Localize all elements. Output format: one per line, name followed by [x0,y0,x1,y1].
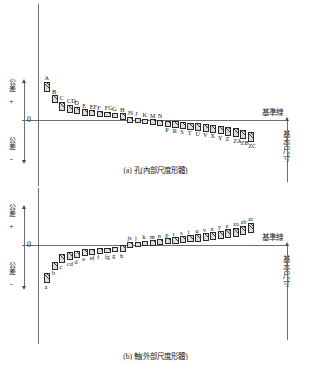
tolerance-zone-bar [52,95,58,103]
hole-tolerance-chart: 0公差+公差-基準線基本尺寸ABCCDDEEFFFGGHJSJKMNPRSTUV… [0,0,311,190]
tolerance-zone-bar [142,119,148,125]
tolerance-zone-label: Z [226,136,230,142]
basic-size-arrow-icon [285,242,289,246]
tolerance-zone-label: K [143,112,147,118]
tolerance-zone-bar [233,128,239,137]
tolerance-zone-label: S [180,129,183,135]
tolerance-zone-bar [142,241,148,247]
tolerance-zone-label: zc [248,216,254,222]
tolerance-zone-label: r [173,231,175,237]
tolerance-zone-label: s [180,230,182,236]
tolerance-zone-bar [248,132,254,142]
tolerance-zone-label: c [60,264,63,270]
tolerance-zone-label: EF [90,104,97,110]
tolerance-zone-bar [82,109,88,115]
tolerance-zone-label: za [233,221,239,227]
tolerance-zone-bar [218,231,224,239]
tolerance-zone-label: P [165,127,168,133]
tolerance-negative-label: 公差 [8,261,15,275]
minus-sign-label: - [10,156,13,164]
plot-area-b: 0公差+公差-基準線基本尺寸abccddeefffgghjsjkmnprstuv… [0,186,311,379]
tolerance-zone-label: u [195,228,198,234]
tolerance-zone-label: h [120,253,123,259]
tolerance-zone-bar [135,118,141,123]
tolerance-zone-label: R [173,128,177,134]
tolerance-zone-bar [218,126,224,134]
tolerance-zone-label: js [127,235,131,241]
tolerance-zone-label: T [188,130,192,136]
minus-sign-label: - [10,281,13,289]
tolerance-zone-bar [112,113,118,118]
tolerance-zone-bar [120,245,126,252]
datum-line-label: 基準線 [262,234,283,242]
tolerance-zone-bar [172,237,178,243]
plus-sign-label: + [9,223,14,231]
tolerance-zone-bar [59,254,65,263]
basic-size-arrow-icon [285,117,289,121]
tolerance-zone-label: n [158,233,161,239]
tolerance-zone-label: fg [105,254,110,260]
plot-left-border [38,188,39,344]
tolerance-zone-label: G [112,106,116,112]
tolerance-zone-label: e [82,256,85,262]
tolerance-zone-label: U [195,131,199,137]
tolerance-zone-bar [195,234,201,241]
tolerance-zone-label: M [150,113,156,119]
tolerance-zone-bar [150,119,156,125]
plus-sign-label: + [9,98,14,106]
tolerance-zone-label: Y [218,135,222,141]
axis-arrow-up-icon [22,205,26,209]
tolerance-zone-bar [187,235,193,242]
tolerance-zone-bar [157,239,163,245]
tolerance-zone-bar [74,107,80,114]
tolerance-zone-label: C [60,95,64,101]
plot-left-border [38,4,39,186]
tolerance-zone-bar [59,102,65,111]
tolerance-zone-label: p [165,232,168,238]
tolerance-zone-label: t [188,229,190,235]
tolerance-zone-label: V [203,132,207,138]
tolerance-zone-label: ZC [248,143,256,149]
basic-size-leader-line [287,245,288,340]
tolerance-zone-label: F [97,105,100,111]
chart-caption: (b) 軸(外部尺度形體) [0,352,311,361]
tolerance-zone-label: H [120,107,124,113]
tolerance-zone-bar [74,251,80,258]
tolerance-zone-bar [67,105,73,113]
tolerance-zone-label: g [112,253,115,259]
tolerance-zone-bar [127,242,133,249]
tolerance-zone-label: ef [90,255,95,261]
tolerance-zone-label: f [97,254,99,260]
tolerance-zone-bar [157,120,163,126]
tolerance-zone-bar [135,242,141,247]
chart-caption: (a) 孔(內部尺度形體) [0,166,311,175]
tolerance-zone-label: A [44,75,48,81]
datum-line-label: 基準線 [262,109,283,117]
tolerance-zone-label: cd [67,261,73,267]
tolerance-zone-bar [89,110,95,116]
axis-arrow-down-icon [22,160,26,164]
tolerance-zone-bar [120,113,126,120]
axis-arrow-up-icon [22,79,26,83]
tolerance-zone-bar [127,117,133,124]
tolerance-zone-label: y [218,224,221,230]
tolerance-zone-bar [44,273,50,283]
tolerance-zone-label: j [135,235,137,241]
tolerance-zone-bar [67,252,73,260]
tolerance-zone-label: E [82,103,86,109]
tolerance-zone-bar [180,236,186,243]
tolerance-zone-label: J [135,111,137,117]
tolerance-zone-label: zb [241,219,247,225]
plot-area-a: 0公差+公差-基準線基本尺寸ABCCDDEEFFFGGHJSJKMNPRSTUV… [0,0,311,190]
tolerance-zone-bar [165,238,171,244]
tolerance-zone-label: k [143,234,146,240]
tolerance-zone-bar [97,111,103,117]
tolerance-zone-label: D [75,100,79,106]
tolerance-negative-label: 公差 [8,136,15,150]
tolerance-zone-bar [248,223,254,233]
tolerance-zone-bar [44,82,50,92]
tolerance-zone-label: b [52,270,55,276]
tolerance-zone-label: JS [127,110,133,116]
zero-axis-label: 0 [27,241,31,249]
tolerance-axis-line [24,82,25,160]
